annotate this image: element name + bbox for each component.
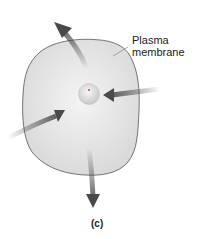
nucleolus	[88, 89, 90, 91]
label-line-2: membrane	[132, 46, 185, 58]
nucleus	[79, 84, 100, 105]
figure-caption: (c)	[91, 218, 103, 229]
plasma-membrane-label: Plasma membrane	[132, 34, 185, 58]
label-line-1: Plasma	[132, 34, 185, 46]
